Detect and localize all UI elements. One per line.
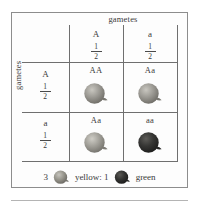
cell-genotype-recessive: aa [123,116,177,125]
pea-icon-legend-yellow [53,169,70,186]
pea-icon-cell-1 [83,81,109,107]
figure-bottom-rule [11,200,188,201]
fraction-denominator: 2 [143,53,157,61]
row-header-allele-1: A [22,70,69,79]
column-header-fraction-2: 1 2 [143,43,157,60]
column-header-allele-1: A [69,30,123,39]
punnett-square-figure: gametes A 1 2 a 1 2 gametes A 1 2 a 1 2 … [0,0,200,211]
phenotype-ratio-legend: 3 yellow: 1 [11,166,188,188]
cell-genotype-heterozygous-top: Aa [123,66,177,75]
legend-yellow-count: 3 [43,172,48,182]
grid-line-v-mid [123,25,124,161]
grid-line-v-right [177,25,178,161]
row-header-allele-2: a [22,119,69,128]
fraction-numerator: 1 [38,83,52,91]
pea-icon-legend-green [114,169,131,186]
grid-line-h-top [22,62,178,63]
fraction-numerator: 1 [143,43,157,51]
pea-icon-cell-2 [137,81,163,107]
pea-icon-cell-3 [83,130,109,156]
fraction-numerator: 1 [89,43,103,51]
column-header-allele-2: a [123,30,177,39]
grid-line-h-bottom [22,161,178,162]
cell-genotype-heterozygous-bottom: Aa [69,116,123,125]
row-header-fraction-2: 1 2 [38,132,52,149]
legend-yellow-label: yellow: 1 [75,172,109,182]
fraction-denominator: 2 [89,53,103,61]
fraction-denominator: 2 [38,93,52,101]
grid-line-v-left [69,25,70,161]
grid-line-h-mid [22,112,178,113]
column-header-fraction-1: 1 2 [89,43,103,60]
legend-green-label: green [136,172,156,182]
fraction-denominator: 2 [38,142,52,150]
fraction-numerator: 1 [38,132,52,140]
cell-genotype-aa-dominant: AA [69,66,123,75]
top-gametes-label: gametes [69,15,177,24]
row-header-fraction-1: 1 2 [38,83,52,100]
pea-icon-cell-4 [137,130,163,156]
